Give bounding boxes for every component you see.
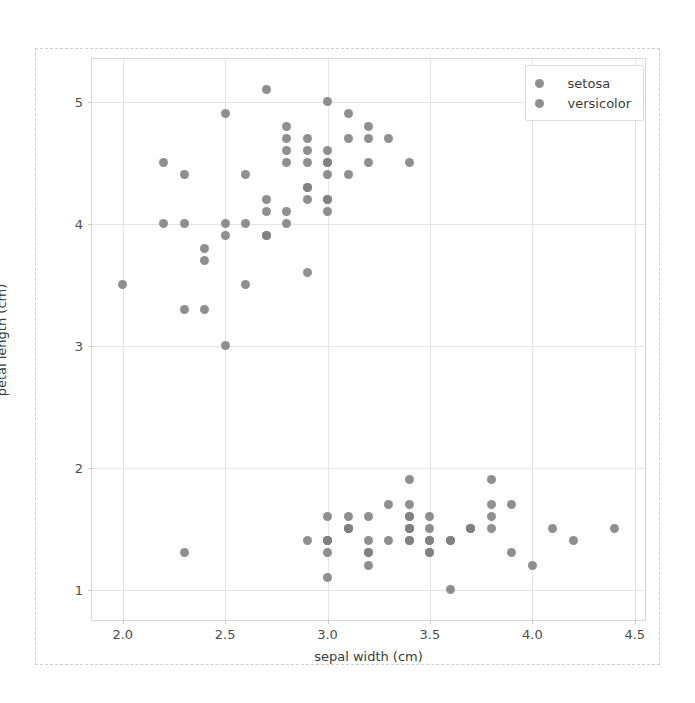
gridline-vertical xyxy=(123,59,124,620)
scatter-point-setosa xyxy=(405,475,414,484)
scatter-point-setosa xyxy=(569,536,578,545)
legend-item-label: setosa xyxy=(568,76,611,91)
scatter-point-setosa xyxy=(384,500,393,509)
scatter-point-versicolor xyxy=(364,158,373,167)
scatter-point-versicolor xyxy=(303,158,312,167)
scatter-point-versicolor xyxy=(262,195,271,204)
scatter-point-setosa xyxy=(323,512,332,521)
scatter-point-setosa xyxy=(487,512,496,521)
scatter-point-versicolor xyxy=(262,207,271,216)
scatter-point-setosa xyxy=(405,500,414,509)
scatter-point-setosa xyxy=(303,536,312,545)
scatter-point-versicolor xyxy=(221,109,230,118)
x-tick-mark xyxy=(430,620,431,624)
legend-item-setosa[interactable]: setosa xyxy=(535,73,631,93)
x-tick-label: 4.5 xyxy=(624,627,645,642)
scatter-point-setosa xyxy=(487,475,496,484)
y-tick-label: 4 xyxy=(75,216,83,231)
scatter-point-setosa xyxy=(323,573,332,582)
x-tick-label: 3.0 xyxy=(317,627,338,642)
scatter-point-setosa xyxy=(323,536,332,545)
y-tick-mark xyxy=(88,224,92,225)
scatter-point-versicolor xyxy=(344,134,353,143)
x-axis-label: sepal width (cm) xyxy=(314,649,423,664)
scatter-point-setosa xyxy=(610,524,619,533)
legend-item-versicolor[interactable]: versicolor xyxy=(535,93,631,113)
scatter-point-versicolor xyxy=(282,207,291,216)
scatter-point-setosa xyxy=(446,585,455,594)
scatter-point-setosa xyxy=(466,524,475,533)
scatter-point-versicolor xyxy=(323,146,332,155)
y-tick-mark xyxy=(88,590,92,591)
x-tick-label: 2.0 xyxy=(112,627,133,642)
scatter-point-versicolor xyxy=(200,305,209,314)
scatter-point-versicolor xyxy=(282,122,291,131)
scatter-point-versicolor xyxy=(323,170,332,179)
gridline-vertical xyxy=(532,59,533,620)
scatter-point-versicolor xyxy=(241,219,250,228)
gridline-horizontal xyxy=(92,468,645,469)
scatter-point-versicolor xyxy=(323,158,332,167)
scatter-point-setosa xyxy=(548,524,557,533)
y-tick-label: 1 xyxy=(75,582,83,597)
scatter-point-versicolor xyxy=(323,195,332,204)
scatter-point-setosa xyxy=(507,548,516,557)
scatter-point-versicolor xyxy=(241,170,250,179)
scatter-point-setosa xyxy=(405,512,414,521)
x-tick-label: 3.5 xyxy=(420,627,441,642)
y-tick-label: 5 xyxy=(75,94,83,109)
scatter-point-versicolor xyxy=(323,207,332,216)
x-tick-mark xyxy=(123,620,124,624)
y-axis-label: petal length (cm) xyxy=(0,283,9,396)
scatter-point-setosa xyxy=(405,524,414,533)
x-tick-mark xyxy=(328,620,329,624)
scatter-point-setosa xyxy=(528,561,537,570)
x-tick-mark xyxy=(635,620,636,624)
x-tick-label: 4.0 xyxy=(522,627,543,642)
scatter-point-setosa xyxy=(507,500,516,509)
gridline-horizontal xyxy=(92,346,645,347)
figure-canvas: 2.02.53.03.54.04.5 12345 sepal width (cm… xyxy=(35,48,660,665)
scatter-point-setosa xyxy=(364,548,373,557)
scatter-point-versicolor xyxy=(180,219,189,228)
scatter-point-setosa xyxy=(425,524,434,533)
scatter-point-versicolor xyxy=(118,280,127,289)
x-tick-mark xyxy=(532,620,533,624)
scatter-point-versicolor xyxy=(262,231,271,240)
scatter-point-versicolor xyxy=(241,280,250,289)
y-tick-mark xyxy=(88,346,92,347)
scatter-point-setosa xyxy=(487,500,496,509)
scatter-point-setosa xyxy=(180,548,189,557)
scatter-point-setosa xyxy=(425,512,434,521)
scatter-point-setosa xyxy=(364,536,373,545)
y-tick-label: 3 xyxy=(75,338,83,353)
scatter-point-setosa xyxy=(425,548,434,557)
scatter-point-versicolor xyxy=(282,158,291,167)
scatter-point-versicolor xyxy=(180,305,189,314)
scatter-point-versicolor xyxy=(364,122,373,131)
scatter-point-versicolor xyxy=(221,341,230,350)
scatter-point-versicolor xyxy=(159,219,168,228)
scatter-point-versicolor xyxy=(405,158,414,167)
scatter-point-versicolor xyxy=(344,170,353,179)
gridline-vertical xyxy=(635,59,636,620)
scatter-point-versicolor xyxy=(344,109,353,118)
scatter-point-setosa xyxy=(487,524,496,533)
x-tick-label: 2.5 xyxy=(215,627,236,642)
y-tick-label: 2 xyxy=(75,460,83,475)
scatter-point-versicolor xyxy=(180,170,189,179)
scatter-point-versicolor xyxy=(364,134,373,143)
scatter-point-versicolor xyxy=(282,219,291,228)
x-tick-mark xyxy=(225,620,226,624)
scatter-point-versicolor xyxy=(303,195,312,204)
y-tick-mark xyxy=(88,102,92,103)
scatter-point-versicolor xyxy=(384,134,393,143)
scatter-point-versicolor xyxy=(200,256,209,265)
scatter-point-setosa xyxy=(344,512,353,521)
gridline-horizontal xyxy=(92,590,645,591)
gridline-horizontal xyxy=(92,224,645,225)
scatter-point-versicolor xyxy=(303,134,312,143)
scatter-point-setosa xyxy=(344,524,353,533)
scatter-point-setosa xyxy=(364,512,373,521)
scatter-point-versicolor xyxy=(303,146,312,155)
